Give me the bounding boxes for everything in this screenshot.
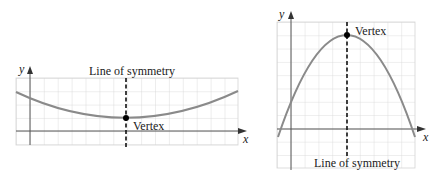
vertex-label: Vertex [355,24,386,38]
x-axis-label: x [422,130,429,144]
grid [16,78,238,145]
parabola-diagrams: y x Line of symmetry Vertex y x Line of … [0,0,448,178]
y-axis-arrow-icon [288,11,294,19]
y-axis-label: y [278,7,285,21]
y-axis-label: y [18,62,25,76]
symmetry-label: Line of symmetry [89,64,175,78]
symmetry-label: Line of symmetry [314,156,400,170]
graph-upward-parabola: y x Line of symmetry Vertex [16,62,249,148]
vertex-point [344,32,350,38]
x-axis-label: x [242,132,249,146]
grid [277,22,415,168]
vertex-point [123,115,129,121]
graph-downward-parabola: y x Line of symmetry Vertex [277,7,429,170]
y-axis-arrow-icon [27,66,33,74]
vertex-label: Vertex [133,119,164,133]
